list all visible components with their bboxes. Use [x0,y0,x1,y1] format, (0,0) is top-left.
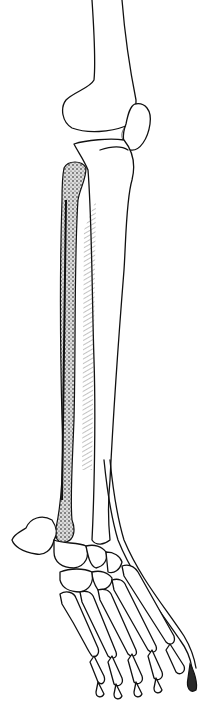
fibula [55,162,86,542]
anatomy-illustration [0,0,203,701]
tibia [74,139,134,544]
interosseous-membrane [82,200,96,470]
phalanges [90,644,184,699]
leg-skeleton-drawing [0,0,203,701]
femur [63,0,136,132]
